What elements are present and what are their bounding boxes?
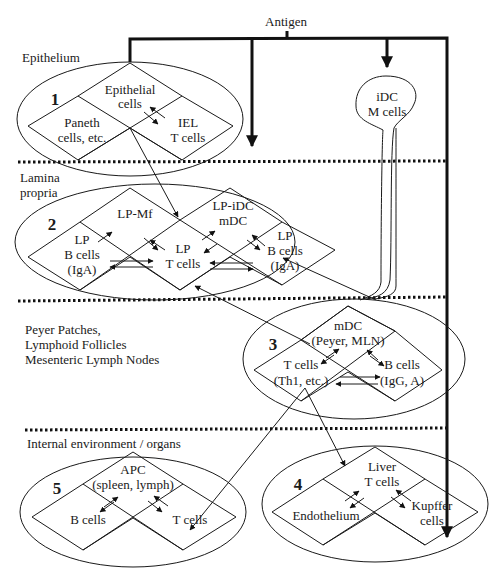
- lp-idc-label: LP-iDC: [212, 198, 253, 213]
- apc-spleen-lymph-label: (spleen, lymph): [92, 477, 174, 492]
- region-number-3: 3: [269, 335, 278, 354]
- arrow-peyer-to-liver: [305, 388, 345, 466]
- compartment-label-mln: Mesenteric Lymph Nodes: [25, 352, 159, 367]
- compartment-label-epithelium: Epithelium: [22, 50, 80, 65]
- immune-compartments-diagram: Antigen Epithelium Lamina propria Peyer …: [0, 0, 502, 581]
- compartment-label-lymphoid: Lymphoid Follicles: [25, 337, 126, 352]
- compartment-label-lamina-propria: Lamina: [20, 170, 60, 185]
- region-4-liver: 4 Liver T cells Endothelium Kupffer cell…: [262, 446, 488, 562]
- lp-b-cells-left-label: LP: [74, 232, 89, 247]
- region-5-spleen-lymph: 5 APC (spleen, lymph) B cells T cells: [20, 452, 246, 567]
- epithelial-cells-label-2: cells: [118, 96, 142, 111]
- compartment-label-lamina-propria-2: propria: [20, 185, 58, 200]
- epithelial-cells-label: Epithelial: [105, 82, 156, 97]
- apc-label: APC: [120, 462, 145, 477]
- paneth-cells-label-2: cells, etc.: [58, 130, 107, 145]
- region-3-peyer-patches: 3 mDC (Peyer, MLN) T cells (Th1, etc.) B…: [243, 299, 465, 419]
- lp-b-cells-right-label-2: B cells: [267, 243, 303, 258]
- region-1-epithelium: 1 Epithelial cells Paneth cells, etc. IE…: [17, 62, 243, 176]
- idc-m-cells-node: iDC M cells: [356, 76, 416, 300]
- liver-label: Liver: [368, 459, 397, 474]
- compartment-label-peyer: Peyer Patches,: [25, 322, 101, 337]
- idc-label: iDC: [376, 89, 398, 104]
- b-cells-igg-label-2: (IgG, A): [380, 373, 424, 388]
- lp-b-cells-left-label-2: B cells: [64, 247, 100, 262]
- divider-epithelium-lamina: [18, 161, 447, 162]
- region-number-2: 2: [48, 215, 57, 234]
- endothelium-label: Endothelium: [292, 508, 359, 523]
- arrow-m-cells-to-lp-b-cells: [283, 258, 376, 300]
- region-number-5: 5: [53, 479, 62, 498]
- mdc-peyer-label-2: (Peyer, MLN): [311, 333, 384, 348]
- mdc-peyer-label: mDC: [334, 318, 362, 333]
- lp-b-cells-right-label-3: (IgA): [271, 258, 300, 273]
- kupffer-label: Kupffer: [412, 498, 454, 513]
- t-cells-th1-label: T cells: [284, 357, 319, 372]
- lp-b-cells-right-label: LP: [277, 228, 292, 243]
- liver-t-cells-label: T cells: [365, 474, 400, 489]
- arrow-peyer-to-spleen-t-cells: [190, 388, 305, 530]
- region-number-4: 4: [294, 475, 303, 494]
- iel-label: IEL: [178, 115, 198, 130]
- mdc-label: mDC: [219, 213, 247, 228]
- compartment-label-internal: Internal environment / organs: [27, 436, 181, 451]
- t-cells-th1-label-2: (Th1, etc.): [274, 373, 329, 388]
- lp-t-cells-label: LP: [175, 241, 190, 256]
- paneth-cells-label: Paneth: [64, 115, 100, 130]
- iel-t-cells-label: T cells: [171, 130, 206, 145]
- lp-mf-label: LP-Mf: [117, 206, 153, 221]
- lp-t-cells-label-2: T cells: [166, 256, 201, 271]
- region-number-1: 1: [51, 90, 60, 109]
- b-cells-spleen-label: B cells: [70, 512, 106, 527]
- lp-b-cells-left-label-3: (IgA): [68, 262, 97, 277]
- antigen-label: Antigen: [265, 14, 307, 29]
- region-2-lamina-propria: 2 LP-Mf LP-iDC mDC LP B cells (IgA) LP T…: [15, 184, 335, 300]
- kupffer-cells-label: cells: [420, 513, 444, 528]
- divider-peyer-internal: [25, 428, 447, 430]
- b-cells-igg-label: B cells: [384, 357, 420, 372]
- m-cells-label: M cells: [368, 104, 407, 119]
